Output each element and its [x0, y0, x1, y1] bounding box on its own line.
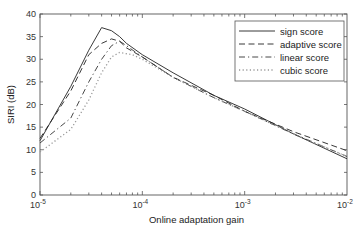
y-tick-label: 20: [26, 100, 36, 110]
y-tick-label: 25: [26, 77, 36, 87]
x-tick-label: 10-5: [30, 198, 46, 210]
x-tick-exponent: -3: [245, 198, 251, 205]
chart: 051015202530354010-510-410-310-2 sign sc…: [0, 0, 362, 231]
legend-label: cubic score: [280, 65, 328, 76]
x-tick-label: 10-4: [132, 198, 148, 210]
legend-label: adaptive score: [280, 39, 342, 50]
y-tick-label: 15: [26, 122, 36, 132]
y-axis-title: SIRI (dB): [5, 85, 16, 124]
y-tick-label: 5: [31, 167, 36, 177]
x-tick-base: 10: [235, 200, 245, 210]
y-tick-label: 0: [31, 190, 36, 200]
x-tick-exponent: -2: [347, 198, 353, 205]
x-axis-title: Online adaptation gain: [149, 214, 244, 225]
y-tick-label: 30: [26, 54, 36, 64]
y-tick-label: 40: [26, 9, 36, 19]
x-tick-label: 10-2: [337, 198, 353, 210]
x-tick-base: 10: [337, 200, 347, 210]
y-tick-label: 35: [26, 32, 36, 42]
x-tick-label: 10-3: [235, 198, 251, 210]
x-tick-exponent: -5: [40, 198, 46, 205]
legend: sign scoreadaptive scorelinear scorecubi…: [235, 21, 344, 81]
legend-label: linear score: [280, 52, 329, 63]
y-tick-label: 10: [26, 145, 36, 155]
x-tick-exponent: -4: [142, 198, 148, 205]
x-tick-base: 10: [132, 200, 142, 210]
legend-label: sign score: [280, 26, 323, 37]
x-tick-base: 10: [30, 200, 40, 210]
